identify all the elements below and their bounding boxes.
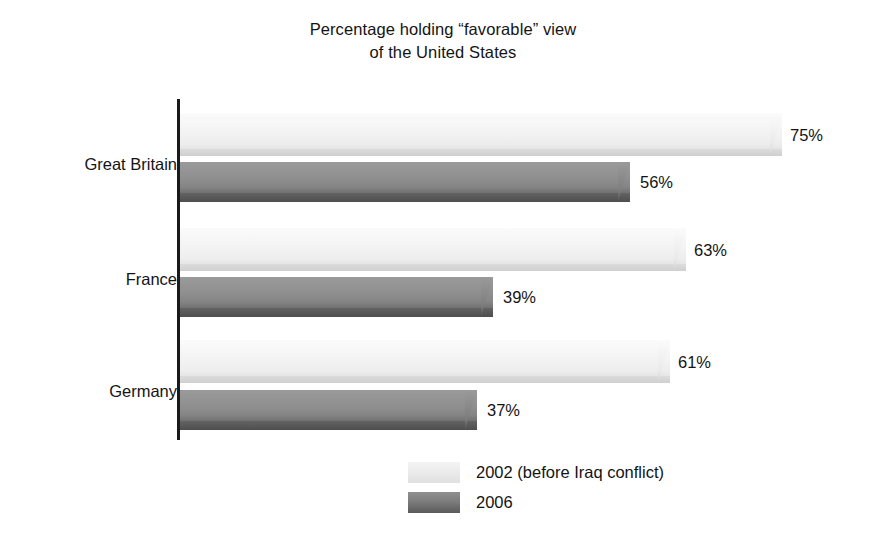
value-label-france-2006: 39% [503,288,536,307]
category-label-text: Great Britain [5,155,177,174]
value-label-great-britain-2002: 75% [790,126,823,145]
category-label-text: France [5,270,177,289]
bar-bevel [180,193,630,202]
bar-bevel [180,149,782,156]
legend-label-2002: 2002 (before Iraq conflict) [476,460,664,484]
value-label-great-britain-2006: 56% [640,173,673,192]
bar-germany-2006 [180,390,477,430]
legend-swatch-2002 [408,462,460,483]
bar-bevel [180,308,493,317]
bar-germany-2002 [180,340,670,383]
legend-label-2006: 2006 [476,490,513,514]
bar-bevel [180,421,477,430]
bar-great-britain-2006 [180,162,630,202]
value-label-france-2002: 63% [694,241,727,260]
bar-bevel [180,376,670,383]
bar-bevel [180,264,686,271]
legend-swatch-2006 [408,492,460,513]
category-label-great-britain: Great Britain [0,155,177,174]
category-label-germany: Germany [0,382,177,401]
value-label-germany-2006: 37% [487,401,520,420]
category-label-france: France [0,270,177,289]
category-label-text: Germany [5,382,177,401]
bar-france-2002 [180,228,686,271]
chart-figure: Percentage holding “favorable” view of t… [0,0,886,549]
value-label-germany-2002: 61% [678,353,711,372]
bar-france-2006 [180,277,493,317]
bar-great-britain-2002 [180,113,782,156]
